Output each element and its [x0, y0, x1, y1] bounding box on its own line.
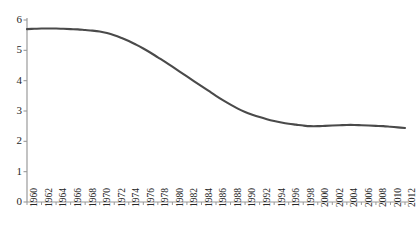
y-axis-tick-label: 5 — [6, 44, 22, 55]
y-axis-tick-label: 0 — [6, 196, 22, 207]
x-axis-tick-label: 1976 — [147, 188, 157, 207]
data-series-line — [27, 28, 405, 128]
x-axis-tick-label: 1968 — [89, 188, 99, 207]
x-axis-tick-label: 2012 — [408, 188, 418, 207]
x-axis-tick-label: 2010 — [394, 188, 404, 207]
x-axis-tick-label: 2004 — [350, 188, 360, 207]
y-axis-tick-label: 6 — [6, 14, 22, 25]
x-axis-tick-label: 1960 — [30, 188, 40, 207]
x-axis-tick-label: 1972 — [118, 188, 128, 207]
y-axis-tick-label: 4 — [6, 75, 22, 86]
x-axis-tick-label: 1962 — [45, 188, 55, 207]
x-axis-tick-label: 2002 — [336, 188, 346, 207]
x-axis-tick-label: 1994 — [278, 188, 288, 207]
y-axis-tick-label: 2 — [6, 135, 22, 146]
x-axis-tick-label: 1988 — [234, 188, 244, 207]
x-axis-tick-label: 2006 — [365, 188, 375, 207]
x-axis-tick-label: 1970 — [103, 188, 113, 207]
x-axis-tick-label: 1996 — [292, 188, 302, 207]
x-axis-tick-label: 2008 — [379, 188, 389, 207]
x-axis-tick-label: 2000 — [321, 188, 331, 207]
x-axis-tick-label: 1966 — [74, 188, 84, 207]
x-axis-tick-label: 1964 — [59, 188, 69, 207]
x-axis-tick-label: 1998 — [307, 188, 317, 207]
x-axis-tick-label: 1990 — [248, 188, 258, 207]
y-axis-labels: 0123456 — [0, 0, 22, 251]
y-axis-tick-label: 1 — [6, 166, 22, 177]
x-axis-tick-label: 1978 — [161, 188, 171, 207]
x-axis-tick-label: 1986 — [219, 188, 229, 207]
x-axis-tick-label: 1984 — [205, 188, 215, 207]
x-axis-tick-label: 1992 — [263, 188, 273, 207]
x-axis-tick-label: 1980 — [176, 188, 186, 207]
x-axis-tick-label: 1974 — [132, 188, 142, 207]
y-axis-tick-label: 3 — [6, 105, 22, 116]
x-axis-tick-label: 1982 — [190, 188, 200, 207]
